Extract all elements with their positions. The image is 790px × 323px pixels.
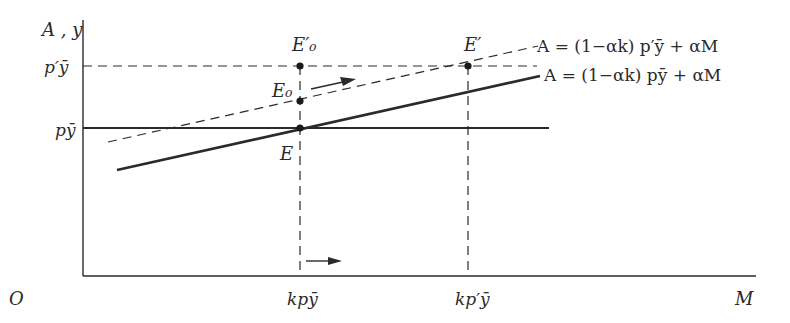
- original-A-line: [117, 76, 540, 170]
- point-E0: [296, 97, 303, 104]
- label-E: E: [279, 143, 293, 164]
- diagram-canvas: A , y M O p′ȳ pȳ kpȳ kp′ȳ E E₀ E′₀ E′ A …: [0, 0, 790, 323]
- shift-arrow-lower: [306, 257, 342, 265]
- equation-shifted: A = (1−αk) p′ȳ + αM: [536, 36, 718, 56]
- equation-original: A = (1−αk) pȳ + αM: [543, 65, 721, 85]
- point-E0-prime: [296, 62, 303, 69]
- origin-label: O: [9, 288, 24, 309]
- label-E-prime: E′: [463, 34, 481, 55]
- axes: [83, 20, 756, 276]
- y-tick-p-prime-ybar: p′ȳ: [44, 57, 69, 77]
- x-axis-label: M: [734, 288, 754, 309]
- label-E0-prime: E′₀: [291, 34, 316, 55]
- point-E: [296, 124, 303, 131]
- shift-arrow-upper: [311, 77, 356, 89]
- x-tick-kp-prime-ybar: kp′ȳ: [455, 289, 490, 309]
- x-tick-kpybar: kpȳ: [287, 289, 318, 309]
- point-E-prime: [464, 62, 471, 69]
- label-E0: E₀: [271, 80, 292, 101]
- y-tick-p-ybar: pȳ: [55, 120, 76, 140]
- y-axis-label: A , y: [40, 19, 83, 40]
